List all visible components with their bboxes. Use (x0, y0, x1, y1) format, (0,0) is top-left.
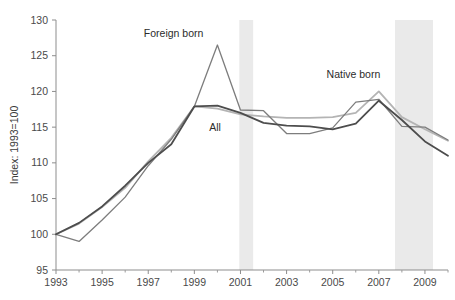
shaded-recession-bands (239, 20, 433, 270)
x-tick-label: 2001 (229, 276, 253, 288)
line-chart: 95100105110115120125130 1993199519971999… (0, 0, 455, 300)
shaded-band-recession-2001 (239, 20, 253, 270)
shaded-band-recession-2008 (395, 20, 433, 270)
chart-container: 95100105110115120125130 1993199519971999… (0, 0, 455, 300)
y-tick-label: 95 (36, 264, 48, 276)
series-label-foreign-born: Foreign born (144, 27, 204, 39)
y-axis-title: Index: 1993=100 (8, 106, 20, 185)
y-tick-label: 130 (30, 14, 48, 26)
y-tick-label: 100 (30, 228, 48, 240)
y-tick-label: 125 (30, 49, 48, 61)
x-tick-label: 1999 (183, 276, 207, 288)
y-tick-label: 120 (30, 85, 48, 97)
y-tick-label: 105 (30, 192, 48, 204)
x-tick-label: 2007 (367, 276, 391, 288)
x-tick-label: 2009 (413, 276, 437, 288)
series-label-native-born: Native born (327, 68, 381, 80)
y-axis-ticks: 95100105110115120125130 (30, 14, 56, 276)
y-tick-label: 115 (31, 121, 48, 133)
x-tick-label: 2005 (321, 276, 345, 288)
x-axis-ticks: 199319951997199920012003200520072009 (44, 270, 448, 288)
x-tick-label: 1995 (90, 276, 114, 288)
x-tick-label: 1993 (44, 276, 68, 288)
series-annotations: AllForeign bornNative born (144, 27, 381, 133)
x-tick-label: 2003 (275, 276, 299, 288)
series-label-all: All (209, 121, 221, 133)
x-tick-label: 1997 (137, 276, 161, 288)
y-tick-label: 110 (31, 156, 48, 168)
